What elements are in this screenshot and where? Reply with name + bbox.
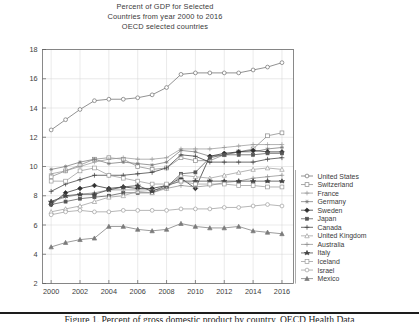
- data-point-marker: [236, 179, 241, 183]
- data-point-marker: [280, 173, 285, 178]
- legend-item-israel[interactable]: Israel: [301, 267, 335, 274]
- legend-label: United Kingdom: [318, 232, 367, 240]
- data-point-marker: [64, 179, 68, 183]
- data-point-marker: [92, 173, 97, 178]
- legend-item-italy[interactable]: Italy: [301, 249, 331, 257]
- data-point-marker: [280, 131, 284, 135]
- data-point-marker: [222, 145, 227, 150]
- data-point-marker: [78, 160, 82, 164]
- data-point-marker: [305, 242, 310, 247]
- y-tick-label: 16: [29, 74, 37, 83]
- data-point-marker: [305, 200, 309, 204]
- data-point-marker: [107, 210, 111, 214]
- data-point-marker: [49, 213, 53, 217]
- data-point-marker: [136, 162, 140, 166]
- legend-item-mexico[interactable]: Mexico: [301, 275, 339, 282]
- data-point-marker: [78, 208, 82, 212]
- data-point-marker: [305, 174, 309, 178]
- data-point-marker: [77, 192, 82, 196]
- x-tick-label: 2002: [72, 287, 88, 296]
- data-point-marker: [237, 71, 241, 75]
- data-point-marker: [251, 184, 255, 188]
- x-tick-label: 2010: [187, 287, 203, 296]
- data-point-marker: [194, 207, 198, 211]
- data-point-marker: [93, 196, 96, 199]
- data-point-marker: [251, 142, 256, 147]
- legend-label: France: [318, 190, 340, 197]
- figure-caption: Figure 1. Percent of gross domestic prod…: [0, 314, 419, 322]
- data-point-marker: [79, 197, 82, 200]
- data-point-marker: [237, 206, 241, 210]
- legend-label: Canada: [318, 224, 342, 231]
- legend-item-germany[interactable]: Germany: [301, 198, 346, 206]
- data-point-marker: [265, 179, 270, 183]
- data-point-marker: [64, 210, 68, 214]
- x-tick-label: 2006: [130, 287, 146, 296]
- legend-label: Iceland: [318, 258, 340, 265]
- data-point-marker: [194, 159, 198, 163]
- y-tick-label: 4: [33, 250, 37, 259]
- data-point-marker: [236, 144, 241, 149]
- data-point-marker: [136, 96, 140, 100]
- y-tick-label: 14: [29, 104, 37, 113]
- y-tick-label: 6: [33, 221, 37, 230]
- x-tick-label: 2016: [274, 287, 290, 296]
- data-point-marker: [208, 207, 212, 211]
- data-point-marker: [78, 177, 83, 182]
- data-point-marker: [64, 118, 68, 122]
- data-point-marker: [194, 150, 198, 154]
- data-point-marker: [64, 165, 68, 169]
- data-point-marker: [93, 99, 97, 103]
- data-point-marker: [280, 152, 283, 155]
- data-point-marker: [304, 250, 309, 254]
- data-point-marker: [107, 97, 111, 101]
- data-point-marker: [179, 207, 183, 211]
- data-point-marker: [265, 157, 270, 162]
- legend-label: Australia: [318, 241, 345, 248]
- data-point-marker: [165, 182, 169, 186]
- data-point-marker: [208, 182, 212, 186]
- data-point-marker: [150, 157, 155, 162]
- data-point-marker: [78, 169, 82, 173]
- legend-label: Switzerland: [318, 181, 354, 188]
- data-point-marker: [194, 71, 198, 75]
- legend-item-united-kingdom[interactable]: United Kingdom: [301, 232, 367, 240]
- x-tick-label: 2000: [43, 287, 59, 296]
- data-point-marker: [194, 171, 197, 174]
- data-point-marker: [135, 171, 140, 176]
- data-point-marker: [280, 146, 284, 150]
- legend-item-iceland[interactable]: Iceland: [301, 258, 340, 265]
- y-tick-label: 18: [29, 45, 37, 54]
- data-point-marker: [266, 134, 270, 138]
- legend-item-france[interactable]: France: [301, 190, 339, 197]
- legend-label: Italy: [318, 249, 331, 257]
- data-point-marker: [64, 200, 67, 203]
- data-point-marker: [150, 93, 154, 97]
- data-point-marker: [223, 153, 226, 156]
- data-point-marker: [93, 157, 97, 161]
- data-point-marker: [222, 71, 226, 75]
- data-point-marker: [121, 160, 125, 164]
- legend-item-united-states[interactable]: United States: [301, 173, 359, 180]
- legend-label: Japan: [318, 215, 337, 223]
- data-point-marker: [280, 61, 284, 65]
- data-point-marker: [251, 160, 256, 165]
- data-point-marker: [92, 183, 97, 188]
- data-point-marker: [179, 72, 183, 76]
- data-point-marker: [305, 191, 310, 196]
- data-point-marker: [236, 160, 241, 165]
- legend-item-canada[interactable]: Canada: [301, 224, 342, 231]
- x-tick-label: 2004: [101, 287, 117, 296]
- legend-item-australia[interactable]: Australia: [301, 241, 344, 248]
- y-tick-label: 2: [33, 279, 37, 288]
- legend-item-switzerland[interactable]: Switzerland: [301, 181, 353, 188]
- data-point-marker: [107, 173, 111, 177]
- data-point-marker: [121, 208, 125, 212]
- data-point-marker: [237, 184, 241, 188]
- data-point-marker: [179, 179, 183, 183]
- legend-label: Sweden: [318, 207, 343, 214]
- data-point-marker: [48, 199, 53, 203]
- legend-item-japan[interactable]: Japan: [301, 215, 336, 223]
- data-point-marker: [121, 176, 125, 180]
- legend-item-sweden[interactable]: Sweden: [301, 207, 343, 214]
